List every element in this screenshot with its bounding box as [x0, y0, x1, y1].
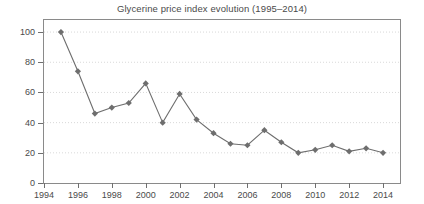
data-point-1998: [109, 104, 115, 110]
y-tick-label-20: 20: [6, 148, 35, 158]
data-point-2009: [295, 150, 301, 156]
y-tick-label-0: 0: [6, 178, 35, 188]
x-tick-label-2014: 2014: [373, 190, 393, 200]
x-tick-label-2012: 2012: [339, 190, 359, 200]
x-tick-label-1996: 1996: [68, 190, 88, 200]
line-chart-svg: [44, 20, 400, 183]
chart-figure: Glycerine price index evolution (1995–20…: [0, 0, 424, 204]
x-tick-label-1998: 1998: [102, 190, 122, 200]
y-tick-label-60: 60: [6, 87, 35, 97]
y-tick-label-100: 100: [6, 27, 35, 37]
y-tick-label-40: 40: [6, 118, 35, 128]
data-point-2005: [227, 141, 233, 147]
x-tick-label-2004: 2004: [204, 190, 224, 200]
x-tick-label-2002: 2002: [170, 190, 190, 200]
x-tick-label-2006: 2006: [237, 190, 257, 200]
data-point-2001: [160, 120, 166, 126]
data-point-1995: [58, 29, 64, 35]
data-point-1996: [75, 68, 81, 74]
x-tick-label-2010: 2010: [305, 190, 325, 200]
x-tick-label-1994: 1994: [34, 190, 54, 200]
x-tick-label-2008: 2008: [271, 190, 291, 200]
y-tick-label-80: 80: [6, 57, 35, 67]
data-point-1997: [92, 110, 98, 116]
chart-title: Glycerine price index evolution (1995–20…: [0, 3, 424, 14]
data-point-2013: [363, 145, 369, 151]
data-point-2010: [312, 147, 318, 153]
plot-area: [43, 19, 401, 184]
data-point-2002: [177, 91, 183, 97]
data-point-2014: [380, 150, 386, 156]
data-point-2012: [346, 148, 352, 154]
x-tick-label-2000: 2000: [136, 190, 156, 200]
gridlines: [44, 32, 400, 153]
data-point-2011: [329, 142, 335, 148]
